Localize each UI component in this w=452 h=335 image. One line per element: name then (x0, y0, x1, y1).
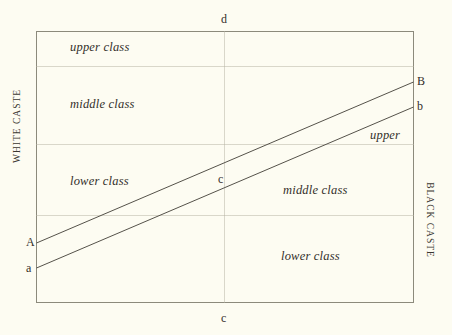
region-label-black-middle: middle class (283, 183, 348, 198)
axis-caption-white-caste: WHITE CASTE (12, 76, 22, 176)
diagram-graphic (0, 0, 452, 335)
region-label-black-upper: upper (370, 128, 400, 143)
point-label-c-center: c (218, 172, 223, 187)
region-label-white-lower: lower class (70, 174, 129, 189)
axis-caption-black-caste: BLACK CASTE (425, 170, 435, 270)
point-label-b: b (417, 99, 423, 114)
region-label-black-lower: lower class (281, 249, 340, 264)
region-label-white-upper: upper class (70, 40, 130, 55)
point-label-a: a (26, 261, 31, 276)
point-label-c-bottom: c (221, 311, 226, 326)
diagram-canvas: upper class middle class lower class upp… (0, 0, 452, 335)
region-label-white-middle: middle class (70, 97, 135, 112)
point-label-A: A (26, 235, 35, 250)
point-label-d: d (221, 12, 227, 27)
point-label-B: B (417, 74, 425, 89)
